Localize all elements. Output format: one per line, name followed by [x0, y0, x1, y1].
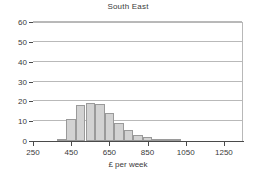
histogram-bar: [105, 113, 115, 141]
x-axis-title: £ per week: [0, 160, 256, 169]
histogram-chart: South East 0102030405060 250450650850105…: [0, 0, 256, 180]
y-axis-tick-label: 10: [18, 117, 27, 126]
histogram-bar: [133, 135, 143, 141]
y-axis-tick-label: 20: [18, 97, 27, 106]
x-axis-tick: [186, 142, 187, 146]
histogram-bar: [95, 104, 105, 141]
chart-title: South East: [0, 2, 256, 11]
y-axis-tick-label: 40: [18, 57, 27, 66]
gridline: [33, 21, 242, 22]
histogram-bar: [66, 119, 76, 141]
histogram-bar: [162, 139, 172, 141]
x-axis-tick-label: 850: [141, 148, 154, 157]
x-axis-tick: [71, 142, 72, 146]
x-axis-tick: [224, 142, 225, 146]
plot-area: [33, 22, 243, 141]
x-axis-tick: [109, 142, 110, 146]
y-axis-tick-label: 30: [18, 77, 27, 86]
y-axis-tick: [29, 62, 33, 63]
y-axis-tick: [29, 42, 33, 43]
x-axis-line: [33, 141, 244, 142]
y-axis-tick: [29, 101, 33, 102]
histogram-bar: [171, 139, 181, 141]
histogram-bar: [124, 130, 134, 141]
x-axis-tick: [148, 142, 149, 146]
y-axis-tick: [29, 121, 33, 122]
y-axis-tick-label: 60: [18, 18, 27, 27]
x-axis-tick-label: 1050: [177, 148, 195, 157]
x-axis-tick-label: 650: [103, 148, 116, 157]
x-axis-tick-label: 250: [26, 148, 39, 157]
y-axis-tick: [29, 82, 33, 83]
bar-series: [33, 23, 242, 141]
y-axis-tick-label: 0: [23, 137, 27, 146]
histogram-bar: [152, 139, 162, 141]
y-axis-tick-label: 50: [18, 37, 27, 46]
x-axis-tick-label: 450: [64, 148, 77, 157]
histogram-bar: [143, 137, 153, 141]
histogram-bar: [86, 103, 96, 141]
histogram-bar: [76, 105, 86, 141]
x-axis-tick: [33, 142, 34, 146]
y-axis-tick: [29, 22, 33, 23]
histogram-bar: [57, 139, 67, 141]
histogram-bar: [114, 123, 124, 141]
x-axis-tick-label: 1250: [215, 148, 233, 157]
